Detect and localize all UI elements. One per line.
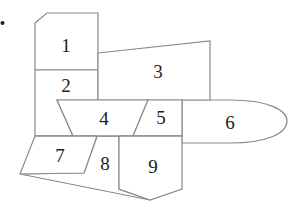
region-4-label: 4 — [99, 108, 109, 129]
region-6-label: 6 — [225, 112, 235, 133]
bullet-dot — [1, 21, 5, 25]
region-3-label: 3 — [153, 61, 163, 82]
region-9-label: 9 — [148, 156, 158, 177]
region-8-label: 8 — [100, 153, 110, 174]
region-7-label: 7 — [55, 145, 65, 166]
region-2-label: 2 — [61, 75, 71, 96]
region-diagram: 1 2 3 4 5 6 7 8 9 — [0, 0, 291, 217]
region-1-label: 1 — [61, 35, 71, 56]
region-5-label: 5 — [156, 107, 166, 128]
